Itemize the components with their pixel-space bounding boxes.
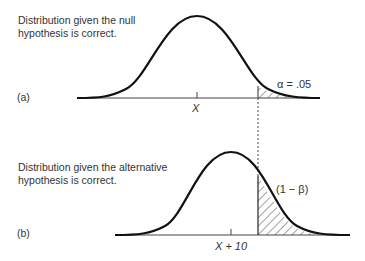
null-mean-label: X [192, 102, 199, 114]
power-diagram: Distribution given the null hypothesis i… [0, 0, 365, 261]
power-label: (1 − β) [276, 183, 308, 195]
panel-a-label: (a) [17, 91, 30, 104]
panel-b-label: (b) [17, 227, 30, 240]
alt-mean-label: X + 10 [215, 240, 247, 252]
alt-caption-line2: hypothesis is correct. [18, 174, 117, 187]
alt-caption-line1: Distribution given the alternative [18, 161, 167, 174]
null-caption-line2: hypothesis is correct. [18, 27, 117, 40]
null-caption-line1: Distribution given the null [18, 14, 135, 27]
alpha-label: α = .05 [277, 78, 311, 90]
